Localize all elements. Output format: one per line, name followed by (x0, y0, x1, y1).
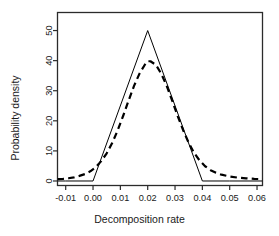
plot-canvas: -0.010.000.010.020.030.040.050.060102030… (0, 0, 279, 236)
series-posterior-density (58, 61, 263, 179)
x-tick-label: 0.00 (84, 193, 102, 203)
x-tick-label: 0.04 (193, 193, 211, 203)
x-tick-label: 0.02 (139, 193, 157, 203)
plot-frame (58, 13, 263, 186)
y-axis-title-container: Probability density (8, 0, 22, 236)
y-tick-label: 30 (44, 86, 54, 96)
y-tick-label: 50 (44, 25, 54, 35)
x-tick-label: 0.05 (221, 193, 239, 203)
x-tick-label: 0.01 (111, 193, 129, 203)
y-tick-label: 40 (44, 56, 54, 66)
probability-density-chart: -0.010.000.010.020.030.040.050.060102030… (0, 0, 279, 236)
y-axis-title: Probability density (8, 0, 22, 236)
x-tick-label: 0.03 (166, 193, 184, 203)
x-tick-label: -0.01 (55, 193, 76, 203)
y-tick-label: 20 (44, 116, 54, 126)
y-tick-label: 10 (44, 146, 54, 156)
y-tick-label: 0 (44, 178, 54, 183)
series-layer (58, 31, 263, 181)
x-axis-title: Decomposition rate (0, 213, 279, 225)
x-tick-label: 0.06 (248, 193, 266, 203)
series-triangular-prior (58, 31, 263, 181)
